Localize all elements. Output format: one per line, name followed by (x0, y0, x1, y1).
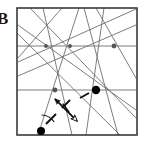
arrangement-line-d4 (30, 8, 136, 118)
arrangement-lines-group (18, 8, 136, 135)
arrangement-line-d2 (18, 9, 136, 62)
arrangement-line-s5 (96, 8, 136, 78)
line-arrangement-diagram (0, 0, 149, 145)
vertex-v2 (68, 44, 72, 48)
arrow-head-hollow-segment (55, 99, 77, 121)
dashed-segment-dash-c (80, 93, 89, 98)
arrangement-line-d6 (18, 8, 62, 58)
vertex-v4 (53, 88, 58, 93)
vertex-v5 (92, 86, 100, 94)
vertex-v1 (44, 44, 48, 48)
dashed-segment-dash-a (46, 114, 56, 124)
region-square (17, 8, 137, 135)
bidirectional-arrow-group (55, 99, 77, 121)
vertex-v3 (112, 44, 117, 49)
vertex-v6 (37, 127, 45, 135)
arrangement-line-d3 (18, 25, 136, 76)
arrangement-lines (18, 8, 136, 135)
figure-container: B (0, 0, 149, 145)
